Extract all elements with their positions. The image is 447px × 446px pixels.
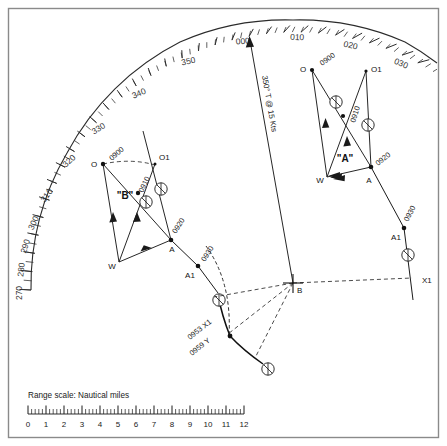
triB-title: "B" [117, 190, 134, 201]
triB-point-O1 [154, 163, 157, 166]
bearing-line-B-to-lower-sym [255, 283, 293, 358]
triA-arrow-up-1 [322, 118, 329, 128]
right-track-label-X1: X1 [422, 276, 432, 285]
triB-arrow-up-1 [109, 212, 117, 223]
right-track-A-to-A1 [371, 167, 404, 228]
rose-label-280: 280 [15, 262, 26, 277]
rose-label-320: 320 [60, 152, 77, 169]
range-scale-label-5: 5 [116, 420, 121, 429]
triB-arrow-up-2 [133, 212, 141, 222]
range-scale-label-11: 11 [222, 420, 231, 429]
triA-point-O1 [364, 69, 367, 72]
rose-label-290: 290 [18, 238, 32, 255]
range-scale-label-0: 0 [26, 420, 31, 429]
rose-arc-path [31, 20, 437, 290]
right-track-symbol-1 [402, 249, 414, 261]
triA-label-A: A [366, 176, 372, 185]
left-track-time-0930: 0930 [199, 244, 215, 263]
right-track-time-0930: 0930 [402, 204, 418, 223]
right-track-label-A1: A1 [391, 233, 401, 242]
range-scale-label-3: 3 [80, 420, 85, 429]
triB-label-W: W [108, 262, 116, 271]
triA-title: "A" [337, 153, 354, 164]
triB-label-A: A [169, 245, 175, 254]
vector-triangle-B: O O1 W A "B" 0900 0910 0920 [91, 131, 187, 271]
range-scale-label-4: 4 [98, 420, 103, 429]
triB-label-O: O [91, 160, 97, 169]
triB-symbol-2 [140, 196, 152, 208]
range-scale-label-10: 10 [204, 420, 213, 429]
range-scale-labels: 0 1 2 3 4 5 6 7 8 9 10 11 12 [26, 420, 249, 429]
triA-label-O: O [300, 65, 306, 74]
triB-time-0900: 0900 [107, 145, 125, 163]
triB-label-O1: O1 [159, 153, 170, 162]
rose-major-ticks [20, 26, 430, 291]
range-scale: Range scale: Nautical miles [26, 391, 249, 429]
bearing-lines [206, 246, 412, 358]
right-track-point-A1 [402, 226, 407, 231]
triA-time-0920: 0920 [374, 150, 393, 167]
rose-label-330: 330 [90, 120, 108, 136]
rose-label-020: 020 [343, 39, 359, 52]
vector-triangle-A: O O1 W A "A" 0900 0910 0920 [300, 51, 392, 185]
triA-label-W: W [316, 176, 324, 185]
left-contact-track: A1 0930 0953 X1 0959 Y [171, 240, 274, 375]
right-contact-track: A1 0930 X1 [371, 167, 432, 300]
left-track-curve-lower [230, 336, 263, 364]
triB-arc-O-O1 [103, 161, 155, 165]
range-scale-label-6: 6 [134, 420, 139, 429]
rose-label-030: 030 [393, 56, 410, 71]
left-track-A-to-A1 [171, 240, 198, 266]
right-track-A1-to-X1 [404, 228, 413, 300]
reference-point-B-label: B [297, 286, 302, 295]
rose-labels: 270 280 290 300 310 320 330 340 350 000 … [14, 32, 410, 300]
range-scale-label-8: 8 [170, 420, 175, 429]
rose-label-010: 010 [290, 32, 305, 43]
triA-label-O1: O1 [371, 65, 382, 74]
triB-time-0920: 0920 [170, 216, 186, 235]
triB-W-A-line [119, 240, 171, 262]
triA-time-0900: 0900 [318, 51, 337, 68]
triB-time-0910: 0910 [137, 175, 152, 194]
own-ship-course-line [250, 38, 294, 284]
triA-symbol-1 [330, 96, 342, 108]
left-track-label-A1: A1 [185, 271, 195, 280]
rose-label-350: 350 [180, 55, 196, 68]
range-scale-label-12: 12 [240, 420, 249, 429]
triB-symbol-1 [155, 183, 167, 195]
rose-label-310: 310 [38, 186, 55, 204]
plot-diagram: 270 280 290 300 310 320 330 340 350 000 … [0, 0, 447, 446]
range-scale-label-1: 1 [44, 420, 49, 429]
left-track-symbol-2 [262, 363, 274, 375]
triA-point-O [310, 68, 314, 72]
range-scale-label-2: 2 [62, 420, 67, 429]
rose-label-340: 340 [130, 86, 147, 101]
range-scale-label-9: 9 [188, 420, 193, 429]
range-scale-label-7: 7 [152, 420, 157, 429]
rose-label-270: 270 [14, 286, 24, 300]
bearing-line-B-to-Y [228, 283, 293, 334]
left-track-label-0953-X1: 0953 X1 [186, 317, 214, 341]
range-scale-caption: Range scale: Nautical miles [28, 391, 129, 400]
own-ship-course-label: 350° T @ 15 Kts [260, 75, 279, 133]
left-track-A1-to-sym [198, 266, 218, 293]
own-ship-course-vector: 350° T @ 15 Kts [246, 36, 293, 283]
triA-arrow-up-2 [343, 136, 351, 147]
triA-symbol-2 [362, 119, 374, 131]
plot-sheet: 270 280 290 300 310 320 330 340 350 000 … [0, 0, 447, 446]
bearing-line-B-to-X1 [293, 278, 412, 283]
triB-point-O [101, 162, 105, 166]
triA-point-mid [341, 114, 345, 118]
triA-time-0910: 0910 [348, 105, 362, 124]
left-track-point-A1 [196, 264, 201, 269]
left-track-point-Y [228, 334, 233, 339]
